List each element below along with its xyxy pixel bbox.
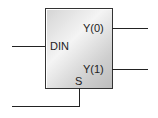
y1-wire: [112, 69, 148, 70]
port-din-label: DIN: [50, 41, 69, 52]
y0-wire: [112, 28, 148, 29]
din-wire: [12, 46, 45, 47]
port-y0-label: Y(0): [83, 23, 104, 34]
port-y1-label: Y(1): [83, 64, 104, 75]
s-wire-vertical: [79, 88, 80, 106]
port-s-label: S: [75, 76, 82, 87]
s-wire-horizontal: [12, 106, 80, 107]
